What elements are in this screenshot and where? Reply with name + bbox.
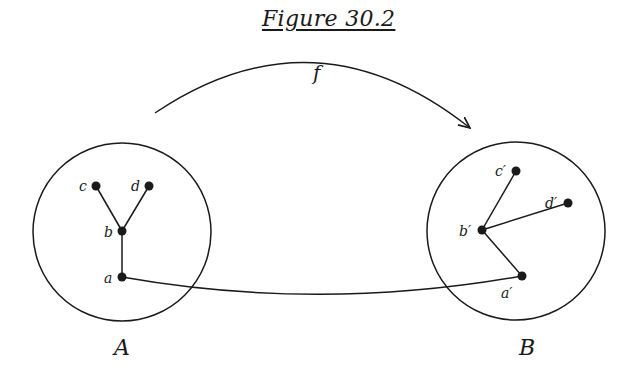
diagram-canvas: f c d b a A c′ d′ b′ a′ B xyxy=(0,0,630,370)
label-d-prime: d′ xyxy=(545,195,558,211)
label-a: a xyxy=(104,270,112,286)
set-a: c d b a A xyxy=(33,143,211,360)
label-c-prime: c′ xyxy=(495,163,507,179)
node-d-prime xyxy=(564,199,573,208)
set-b: c′ d′ b′ a′ B xyxy=(427,142,605,360)
label-b-prime: b′ xyxy=(459,223,472,239)
set-b-label: B xyxy=(518,335,535,360)
node-b-prime xyxy=(478,226,487,235)
label-b: b xyxy=(104,224,113,240)
node-c-prime xyxy=(512,167,521,176)
label-a-prime: a′ xyxy=(501,285,513,301)
map-label-f: f xyxy=(311,61,324,85)
node-b xyxy=(118,227,127,236)
node-d xyxy=(145,182,154,191)
set-a-label: A xyxy=(112,335,130,360)
label-d: d xyxy=(131,178,140,194)
label-c: c xyxy=(79,178,87,194)
edge-a-to-a-prime xyxy=(122,276,522,294)
edge-b2-a2 xyxy=(482,230,522,276)
node-c xyxy=(92,182,101,191)
